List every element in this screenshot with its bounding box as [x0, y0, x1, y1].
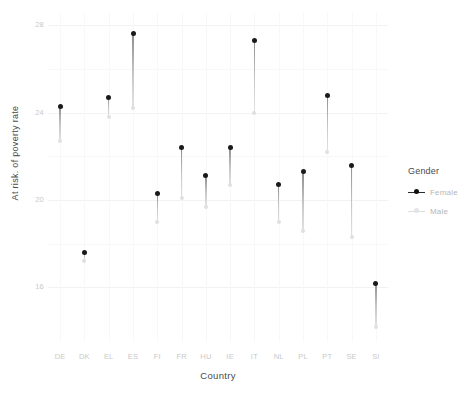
data-point-male[interactable]	[325, 150, 329, 154]
gender-gap-connector	[302, 172, 303, 231]
y-tick-label: 28	[4, 20, 44, 29]
male-marker-icon	[408, 205, 425, 217]
gender-gap-connector	[108, 97, 109, 117]
gender-gap-connector	[132, 34, 133, 108]
gender-gap-connector	[181, 148, 182, 198]
x-tick-label: SI	[361, 352, 391, 361]
gender-gap-connector	[157, 193, 158, 221]
data-point-female[interactable]	[131, 31, 136, 36]
data-point-female[interactable]	[276, 182, 281, 187]
data-point-female[interactable]	[252, 38, 257, 43]
x-gridline	[60, 12, 61, 342]
female-marker-icon	[408, 186, 425, 198]
data-point-male[interactable]	[374, 325, 378, 329]
data-point-male[interactable]	[131, 106, 135, 110]
y-axis-title: At risk. of poverty rate	[10, 68, 20, 238]
data-point-male[interactable]	[228, 183, 232, 187]
data-point-female[interactable]	[82, 250, 87, 255]
data-point-female[interactable]	[203, 173, 208, 178]
data-point-male[interactable]	[82, 259, 86, 263]
data-point-male[interactable]	[252, 111, 256, 115]
data-point-female[interactable]	[349, 163, 354, 168]
data-point-female[interactable]	[228, 145, 233, 150]
y-gridline	[48, 287, 388, 288]
data-point-female[interactable]	[325, 93, 330, 98]
gender-gap-connector	[327, 95, 328, 152]
data-point-male[interactable]	[350, 235, 354, 239]
data-point-male[interactable]	[204, 205, 208, 209]
gender-gap-connector	[278, 185, 279, 222]
data-point-female[interactable]	[58, 104, 63, 109]
legend-item-label: Male	[430, 207, 448, 216]
data-point-male[interactable]	[107, 115, 111, 119]
x-gridline	[84, 12, 85, 342]
data-point-male[interactable]	[155, 220, 159, 224]
chart-root: 16202428 At risk. of poverty rate DEDKEL…	[0, 0, 475, 400]
y-gridline-minor	[48, 244, 388, 245]
data-point-female[interactable]	[155, 191, 160, 196]
gender-gap-connector	[351, 165, 352, 237]
legend-item-female[interactable]: Female	[408, 185, 472, 199]
data-point-male[interactable]	[58, 139, 62, 143]
x-gridline	[157, 12, 158, 342]
gender-gap-connector	[205, 176, 206, 207]
y-gridline	[48, 200, 388, 201]
y-axis: 16202428	[0, 12, 44, 342]
gender-gap-connector	[254, 40, 255, 112]
gender-gap-connector	[375, 283, 376, 327]
data-point-female[interactable]	[373, 281, 378, 286]
x-axis: DEDKELESFIFRHUIEITNLPLPTSESI	[48, 352, 388, 366]
y-gridline-minor	[48, 156, 388, 157]
data-point-female[interactable]	[301, 169, 306, 174]
legend-item-label: Female	[430, 188, 458, 197]
plot-panel	[48, 12, 388, 342]
data-point-female[interactable]	[106, 95, 111, 100]
x-gridline	[109, 12, 110, 342]
data-point-female[interactable]	[179, 145, 184, 150]
x-gridline	[327, 12, 328, 342]
data-point-male[interactable]	[277, 220, 281, 224]
y-gridline-minor	[48, 69, 388, 70]
gender-gap-connector	[229, 148, 230, 185]
legend-title: Gender	[408, 166, 472, 176]
x-gridline	[279, 12, 280, 342]
legend-item-male[interactable]: Male	[408, 204, 472, 218]
x-axis-title: Country	[48, 370, 388, 381]
data-point-male[interactable]	[180, 196, 184, 200]
y-tick-label: 16	[4, 282, 44, 291]
y-gridline	[48, 25, 388, 26]
data-point-male[interactable]	[301, 229, 305, 233]
legend: Gender Female Male	[408, 166, 472, 223]
y-gridline	[48, 113, 388, 114]
gender-gap-connector	[59, 106, 60, 141]
